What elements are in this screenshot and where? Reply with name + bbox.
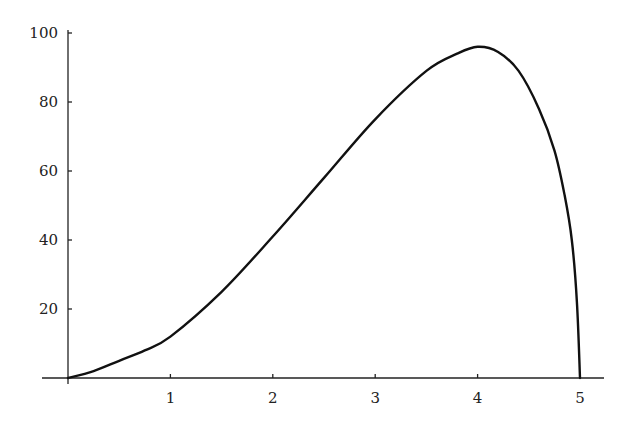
x-tick-label: 4 <box>473 389 483 407</box>
x-tick-label: 3 <box>370 389 380 407</box>
y-axis: 20406080100 <box>29 24 72 384</box>
x-tick-label: 2 <box>268 389 278 407</box>
data-curve <box>68 47 580 378</box>
x-axis: 12345 <box>42 374 604 407</box>
y-tick-label: 60 <box>39 162 58 180</box>
x-tick-label: 1 <box>166 389 176 407</box>
y-tick-label: 20 <box>39 300 58 318</box>
x-tick-label: 5 <box>575 389 585 407</box>
y-tick-label: 40 <box>39 231 58 249</box>
y-tick-label: 80 <box>39 93 58 111</box>
line-chart: 20406080100 12345 <box>0 0 633 426</box>
y-tick-label: 100 <box>29 24 58 42</box>
